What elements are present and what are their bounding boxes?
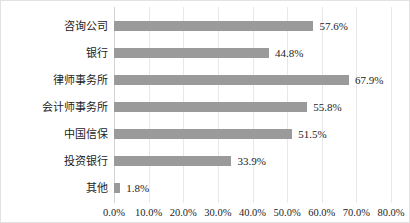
- x-tick-label: 30.0%: [204, 205, 231, 221]
- bar-row: 中国信保51.5%: [114, 121, 391, 148]
- x-axis: 0.0%10.0%20.0%30.0%40.0%50.0%60.0%70.0%8…: [114, 205, 391, 221]
- category-label: 会计师事务所: [42, 94, 108, 121]
- x-tick-label: 60.0%: [308, 205, 335, 221]
- category-label: 其他: [86, 175, 108, 202]
- category-label: 投资银行: [64, 148, 108, 175]
- x-tick-label: 0.0%: [103, 205, 125, 221]
- x-tick-label: 70.0%: [343, 205, 370, 221]
- bar-value-label: 33.9%: [237, 148, 265, 175]
- bar-row: 银行44.8%: [114, 40, 391, 67]
- bar-value-label: 51.5%: [298, 121, 326, 148]
- category-label: 中国信保: [64, 121, 108, 148]
- bar-value-label: 67.9%: [355, 67, 383, 94]
- bar-value-label: 44.8%: [275, 40, 303, 67]
- x-tick-label: 10.0%: [135, 205, 162, 221]
- category-label: 律师事务所: [53, 67, 108, 94]
- category-label: 银行: [86, 40, 108, 67]
- x-tick-label: 40.0%: [239, 205, 266, 221]
- category-label: 咨询公司: [64, 13, 108, 40]
- bar: [114, 75, 349, 85]
- bar-row: 会计师事务所55.8%: [114, 94, 391, 121]
- bar-row: 咨询公司57.6%: [114, 13, 391, 40]
- bar-row: 其他1.8%: [114, 175, 391, 202]
- bar-row: 律师事务所67.9%: [114, 67, 391, 94]
- bar: [114, 48, 269, 58]
- bar: [114, 156, 231, 166]
- bar-row: 投资银行33.9%: [114, 148, 391, 175]
- plot-area: 咨询公司57.6%银行44.8%律师事务所67.9%会计师事务所55.8%中国信…: [114, 7, 391, 203]
- bar-value-label: 1.8%: [126, 175, 149, 202]
- bar: [114, 183, 120, 193]
- bar-value-label: 55.8%: [313, 94, 341, 121]
- x-tick-label: 50.0%: [274, 205, 301, 221]
- bar: [114, 129, 292, 139]
- bar: [114, 102, 307, 112]
- bar-chart: 咨询公司57.6%银行44.8%律师事务所67.9%会计师事务所55.8%中国信…: [0, 0, 410, 223]
- bar: [114, 21, 313, 31]
- gridline-80.0%: [391, 7, 392, 203]
- x-tick-label: 80.0%: [377, 205, 404, 221]
- bar-value-label: 57.6%: [319, 13, 347, 40]
- x-tick-label: 20.0%: [170, 205, 197, 221]
